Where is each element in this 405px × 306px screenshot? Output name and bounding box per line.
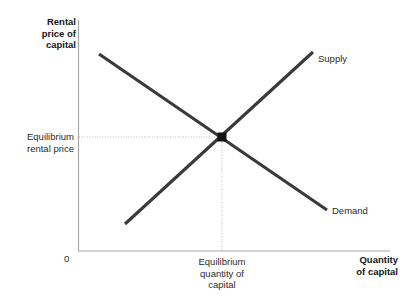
equilibrium-point-marker[interactable] <box>218 133 227 142</box>
x-axis-title: Quantity of capital <box>330 254 398 277</box>
supply-demand-figure: Rental price of capital Quantity of capi… <box>0 0 405 306</box>
supply-curve-label: Supply <box>318 53 378 65</box>
demand-curve-label: Demand <box>332 205 392 217</box>
y-axis-title: Rental price of capital <box>4 16 76 51</box>
equilibrium-rental-price-label: Equilibrium rental price <box>8 131 74 154</box>
equilibrium-quantity-label: Equilibrium quantity of capital <box>182 256 262 291</box>
origin-label: 0 <box>64 253 78 265</box>
demand-curve[interactable] <box>99 54 327 210</box>
